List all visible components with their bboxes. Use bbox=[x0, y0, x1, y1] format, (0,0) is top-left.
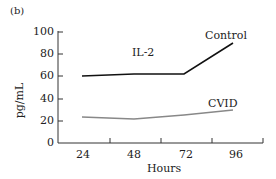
legend-control: Control bbox=[205, 30, 247, 41]
y-tick-label: 100 bbox=[26, 26, 54, 37]
x-axis-label: Hours bbox=[147, 163, 181, 174]
y-tick-label: 20 bbox=[26, 115, 54, 126]
y-ticks bbox=[58, 32, 63, 121]
series-control-line bbox=[82, 43, 233, 76]
y-tick-label: 60 bbox=[26, 70, 54, 81]
x-tick-label: 96 bbox=[224, 149, 248, 160]
y-axis-label: pg/mL bbox=[14, 83, 25, 119]
x-tick-label: 48 bbox=[122, 149, 146, 160]
y-tick-label: 40 bbox=[26, 93, 54, 104]
annotation-il2: IL-2 bbox=[132, 47, 154, 58]
x-tick-label: 24 bbox=[71, 149, 95, 160]
series-cvid-line bbox=[82, 110, 233, 119]
y-tick-label: 0 bbox=[26, 137, 54, 148]
x-ticks bbox=[110, 138, 263, 143]
legend-cvid: CVID bbox=[208, 98, 238, 109]
y-tick-label: 80 bbox=[26, 48, 54, 59]
x-tick-label: 72 bbox=[174, 149, 198, 160]
